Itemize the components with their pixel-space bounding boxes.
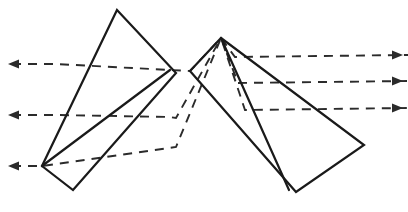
optical-diagram-canvas <box>0 0 408 212</box>
ray-diagram-svg <box>0 0 408 212</box>
